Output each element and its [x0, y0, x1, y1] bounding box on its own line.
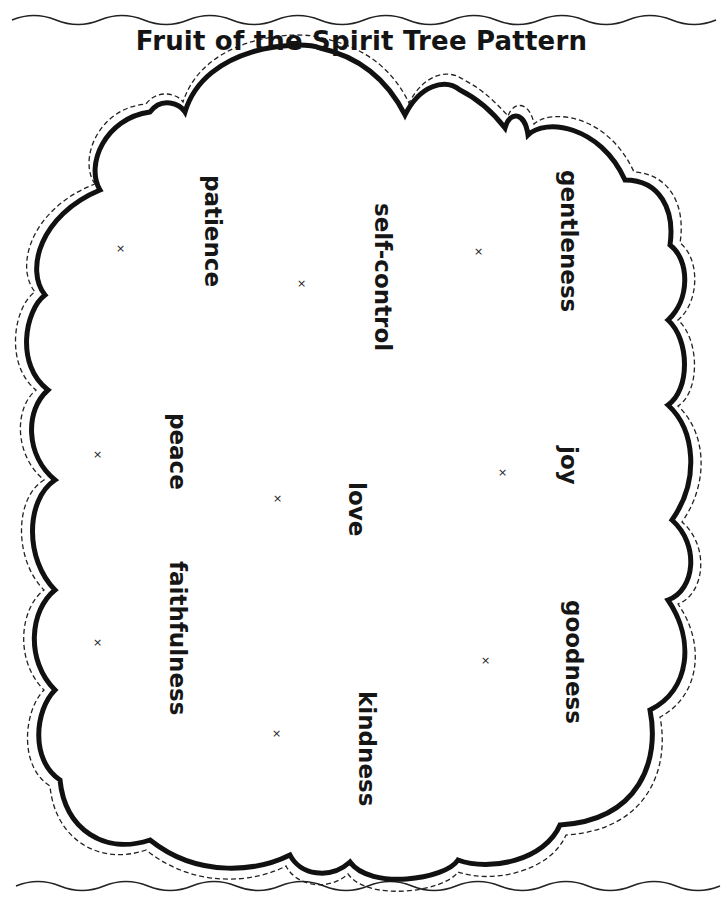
placement-mark-love: × [273, 493, 282, 504]
bottom-wavy-border [16, 882, 720, 891]
word-joy: joy [557, 446, 580, 485]
word-faithfulness: faithfulness [166, 561, 189, 715]
word-kindness: kindness [355, 691, 378, 806]
word-gentleness: gentleness [557, 170, 580, 312]
top-wavy-border [12, 16, 716, 25]
placement-mark-joy: × [498, 467, 507, 478]
placement-mark-peace: × [93, 449, 102, 460]
placement-mark-faithfulness: × [93, 637, 102, 648]
word-peace: peace [166, 413, 189, 490]
word-goodness: goodness [562, 600, 585, 724]
placement-mark-kindness: × [272, 728, 281, 739]
page-title: Fruit of the Spirit Tree Pattern [0, 26, 723, 56]
word-self-control: self-control [371, 203, 394, 351]
worksheet-page: Fruit of the Spirit Tree Pattern patienc… [0, 0, 723, 912]
placement-mark-goodness: × [481, 655, 490, 666]
word-patience: patience [201, 175, 224, 287]
placement-mark-self-control: × [297, 278, 306, 289]
placement-mark-gentleness: × [474, 246, 483, 257]
placement-mark-patience: × [116, 243, 125, 254]
word-love: love [345, 482, 368, 536]
